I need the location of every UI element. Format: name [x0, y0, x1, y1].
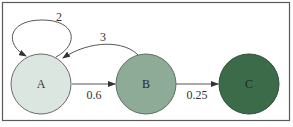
node-b: B: [116, 54, 176, 114]
node-c: C: [219, 54, 279, 114]
state-diagram: 2 3 0.6 0.25 A B C: [0, 0, 293, 127]
node-a: A: [11, 54, 71, 114]
node-b-label: B: [142, 77, 150, 91]
edge-label-a-b: 0.6: [87, 88, 102, 102]
edge-label-b-a: 3: [100, 30, 106, 44]
node-c-label: C: [245, 77, 253, 91]
node-a-label: A: [37, 77, 46, 91]
edge-label-a-a: 2: [56, 10, 62, 24]
edge-label-b-c: 0.25: [187, 88, 208, 102]
